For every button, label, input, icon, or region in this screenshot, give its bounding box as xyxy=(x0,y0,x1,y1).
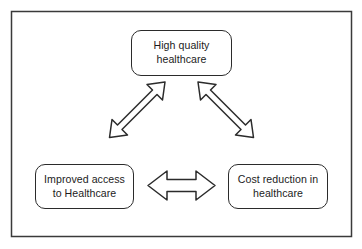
node-label-high-quality-healthcare: High quality healthcare xyxy=(149,39,215,66)
node-cost-reduction-in-healthcare[interactable]: Cost reduction in healthcare xyxy=(228,164,328,209)
node-high-quality-healthcare[interactable]: High quality healthcare xyxy=(131,30,232,76)
diagram-canvas: High quality healthcare Improved access … xyxy=(0,0,362,249)
node-label-cost-reduction-in-healthcare: Cost reduction in healthcare xyxy=(233,173,323,200)
node-improved-access-to-healthcare[interactable]: Improved access to Healthcare xyxy=(35,164,134,209)
node-label-improved-access-to-healthcare: Improved access to Healthcare xyxy=(39,173,130,200)
